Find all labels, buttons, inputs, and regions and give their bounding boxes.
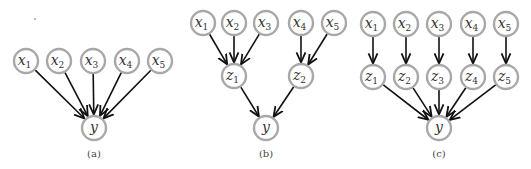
node-c-y: y [427,116,451,140]
node-c-z4: z4 [461,65,485,89]
node-b-x5: x5 [322,11,346,35]
edge-c-z2-to-y [413,88,432,117]
node-a-x3: x3 [81,49,105,73]
edge-c-z4-to-y [446,88,465,117]
stray-dot [34,18,36,20]
node-b-y: y [254,116,278,140]
caption-c: (c) [432,148,446,159]
node-c-x3: x3 [427,12,451,36]
node-b-x2: x2 [222,11,246,35]
edge-a-x3-to-y [93,74,94,115]
node-a-y: y [82,116,106,140]
node-b-x3: x3 [254,11,278,35]
node-b-z1: z1 [222,64,246,88]
nodes-layer: x1x2x3x4x5yx1x2x3x4x5z1z2yx1x2x3x4x5z1z2… [14,11,518,140]
node-label: y [434,119,444,135]
edge-b-x3-to-z1 [241,34,259,64]
edge-a-x2-to-y [65,73,88,117]
node-c-z3: z3 [427,65,451,89]
node-c-x2: x2 [394,12,418,36]
node-a-x1: x1 [14,49,38,73]
node-b-x4: x4 [289,11,313,35]
edge-b-z1-to-y [241,87,259,116]
node-c-x5: x5 [494,12,518,36]
node-c-z5: z5 [494,65,518,89]
edge-a-x4-to-y [100,73,121,116]
edge-b-z2-to-y [274,87,294,117]
node-b-x1: x1 [191,11,215,35]
node-label: y [261,119,271,135]
node-a-x2: x2 [47,49,71,73]
caption-a: (a) [87,148,101,159]
node-c-x1: x1 [361,12,385,36]
node-c-z2: z2 [394,65,418,89]
node-c-z1: z1 [361,65,385,89]
node-c-x4: x4 [461,12,485,36]
edge-b-x5-to-z2 [308,34,327,65]
captions-layer: (a)(b)(c) [87,148,446,159]
edge-b-x1-to-z1 [210,34,228,64]
graphical-model-figure: x1x2x3x4x5yx1x2x3x4x5z1z2yx1x2x3x4x5z1z2… [0,0,531,169]
caption-b: (b) [259,148,273,159]
node-label: y [89,119,99,135]
node-a-x5: x5 [148,49,172,73]
node-a-x4: x4 [115,49,139,73]
node-b-z2: z2 [289,64,313,88]
